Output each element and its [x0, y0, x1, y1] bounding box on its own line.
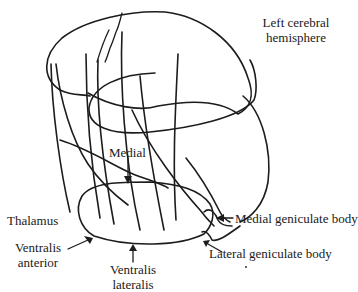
- lateral-geniculate-outline: [202, 226, 240, 240]
- label-medial: Medial: [109, 145, 146, 160]
- central-sulcus: [105, 13, 122, 62]
- label-thalamus: Thalamus: [7, 213, 58, 228]
- label-ventralis-anterior: Ventralis anterior: [10, 240, 66, 270]
- label-hemisphere: Left cerebral hemisphere: [252, 15, 340, 45]
- label-hemisphere-line2: hemisphere: [252, 30, 340, 45]
- fiber-1: [51, 64, 70, 212]
- fiber-9: [132, 110, 214, 226]
- label-ventralis-lateralis: Ventralis lateralis: [105, 262, 161, 292]
- label-ventralis-lateralis-line1: Ventralis: [105, 262, 161, 277]
- fiber-7: [174, 54, 178, 220]
- label-medial-geniculate: Medial geniculate body: [235, 211, 358, 226]
- label-lateral-geniculate: Lateral geniculate body: [209, 246, 332, 261]
- ventralis-anterior-arrowhead: [84, 236, 93, 244]
- fiber-5: [122, 32, 140, 230]
- medial-geniculate-arrowhead: [216, 214, 224, 222]
- label-hemisphere-line1: Left cerebral: [252, 15, 340, 30]
- hemisphere-outline: [47, 12, 251, 114]
- medial-surface-oval: [60, 90, 90, 96]
- fiber-2: [56, 64, 128, 205]
- stray-dot: [245, 266, 247, 268]
- ventralis-anterior-arrow-line: [68, 240, 88, 249]
- inner-oval: [89, 60, 256, 133]
- label-ventralis-lateralis-line2: lateralis: [105, 277, 161, 292]
- hemisphere-right-contour: [240, 96, 269, 222]
- label-ventralis-anterior-line2: anterior: [10, 255, 66, 270]
- ventralis-lateralis-arrowhead: [129, 244, 137, 251]
- label-ventralis-anterior-line1: Ventralis: [10, 240, 66, 255]
